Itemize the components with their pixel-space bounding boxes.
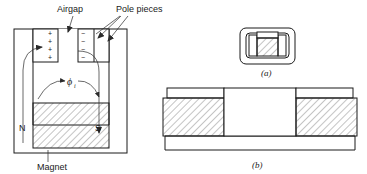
flux-symbol: ϕ (67, 76, 72, 87)
minus-sign: − (81, 38, 85, 45)
plus-sign: + (48, 46, 52, 53)
caption-a: (a) (261, 68, 272, 78)
plus-sign: + (48, 38, 52, 45)
airgap-label: Airgap (57, 4, 83, 14)
figure-b-side-view: (b) (163, 88, 357, 170)
north-pole-label: N (19, 123, 26, 133)
south-pole-label: S (95, 123, 101, 133)
pole-piece-left: + + + + (33, 29, 58, 62)
minus-sign: − (81, 54, 85, 61)
minus-sign: − (81, 30, 85, 37)
magnetic-circuit-figure: + + + + − − − − (0, 0, 367, 174)
caption-b: (b) (252, 160, 263, 170)
pole-pieces-label: Pole pieces (116, 4, 163, 14)
plus-sign: + (48, 30, 52, 37)
pole-piece-right: − − − − (78, 29, 109, 62)
charge-marks-negative: − − − − (81, 30, 85, 61)
figure-a-end-view: (a) (240, 28, 295, 78)
charge-marks-positive: + + + + (48, 30, 52, 61)
plus-sign: + (48, 54, 52, 61)
magnet-label: Magnet (37, 162, 68, 172)
left-core-assembly: + + + + − − − − (14, 4, 163, 172)
airgap-annotation: Airgap (57, 4, 83, 32)
figure-canvas: + + + + − − − − (0, 0, 367, 174)
